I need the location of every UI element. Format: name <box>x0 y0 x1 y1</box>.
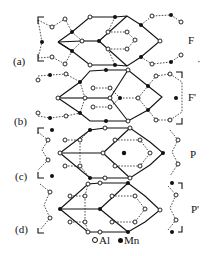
panel-a-structure <box>38 13 183 67</box>
panel-d-structure <box>38 181 182 234</box>
structure-label-f: F <box>188 35 194 46</box>
structure-label-p-prime: P' <box>191 204 199 215</box>
legend-item-mn: Mn <box>118 234 139 246</box>
stray-mark: · <box>197 56 201 67</box>
panel-label-b: (b) <box>14 116 27 127</box>
panel-b-structure <box>36 68 182 124</box>
panel-label-c: (c) <box>15 171 27 182</box>
al-atom-icon <box>92 237 98 243</box>
structure-label-f-prime: F' <box>188 92 196 103</box>
structure-diagram <box>0 0 209 256</box>
legend-item-al: Al <box>92 234 110 246</box>
mn-atom-icon <box>118 238 123 243</box>
panel-label-a: (a) <box>13 56 25 67</box>
legend-mn-label: Mn <box>124 234 139 246</box>
legend-al-label: Al <box>99 234 110 246</box>
panel-c-structure <box>38 126 180 180</box>
structure-label-p: P <box>190 149 196 160</box>
legend: Al Mn <box>92 234 139 246</box>
panel-label-d: (d) <box>15 224 28 235</box>
